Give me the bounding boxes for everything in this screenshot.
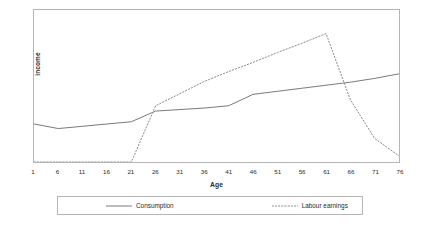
x-tick-label: 36 — [192, 167, 216, 177]
x-tick-label: 31 — [168, 167, 192, 177]
legend-item-labour-earnings: Labour earnings — [272, 197, 348, 214]
series-line-consumption — [34, 74, 399, 129]
x-axis-tick-labels: 161116212631364146515661667176 — [33, 167, 400, 179]
plot-svg — [34, 10, 399, 162]
x-tick-label: 41 — [217, 167, 241, 177]
x-tick-label: 51 — [266, 167, 290, 177]
legend-label-labour-earnings: Labour earnings — [302, 202, 348, 210]
x-tick-label: 46 — [241, 167, 265, 177]
series-line-labour-earnings — [34, 34, 399, 162]
x-tick-label: 16 — [94, 167, 118, 177]
plot-area — [33, 9, 400, 163]
x-tick-label: 61 — [315, 167, 339, 177]
x-tick-label: 56 — [290, 167, 314, 177]
chart-figure: income 161116212631364146515661667176 Ag… — [0, 0, 425, 227]
x-tick-label: 6 — [45, 167, 69, 177]
solid-line-swatch-icon — [106, 203, 132, 209]
dotted-line-swatch-icon — [272, 203, 298, 209]
x-tick-label: 71 — [364, 167, 388, 177]
legend-label-consumption: Consumption — [136, 202, 174, 210]
y-axis-title: income — [32, 39, 44, 89]
x-tick-label: 66 — [339, 167, 363, 177]
x-tick-label: 1 — [21, 167, 45, 177]
legend-item-consumption: Consumption — [106, 197, 174, 214]
legend: Consumption Labour earnings — [57, 196, 363, 215]
x-tick-label: 76 — [388, 167, 412, 177]
x-tick-label: 21 — [119, 167, 143, 177]
x-axis-title: Age — [33, 180, 400, 190]
x-tick-label: 26 — [143, 167, 167, 177]
x-tick-label: 11 — [70, 167, 94, 177]
